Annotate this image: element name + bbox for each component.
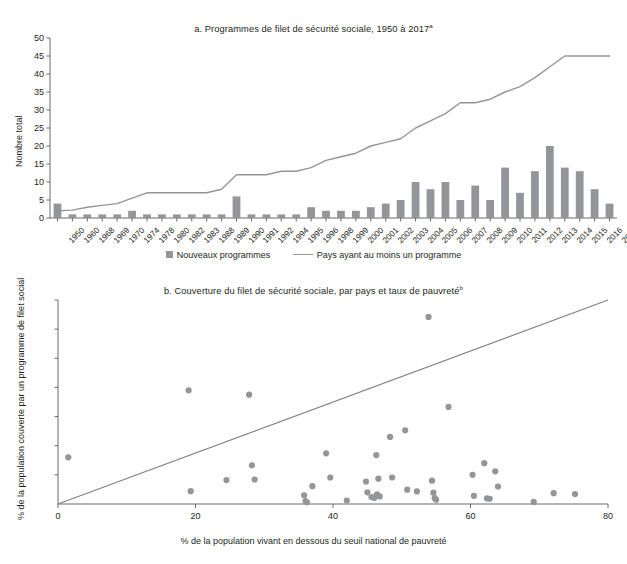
legend-line-label: Pays ayant au moins un programme <box>317 250 462 260</box>
scatter-point <box>495 483 501 489</box>
bar-1978 <box>143 214 151 218</box>
panel-a-ytick-15: 15 <box>22 160 44 169</box>
figure-container: a. Programmes de filet de sécurité socia… <box>0 0 627 564</box>
panel-b-scatter-chart: b. Couverture du filet de sécurité socia… <box>0 272 627 564</box>
panel-a-ytick-40: 40 <box>22 70 44 79</box>
scatter-point <box>301 492 307 498</box>
panel-b-xtick-80: 80 <box>593 512 623 521</box>
bar-1960 <box>69 214 77 218</box>
bar-1982 <box>173 214 181 218</box>
bar-2014 <box>561 168 569 218</box>
bar-1991 <box>248 214 256 218</box>
scatter-point <box>65 454 71 460</box>
bar-1970 <box>113 214 121 218</box>
scatter-point <box>469 472 475 478</box>
bar-2009 <box>486 200 494 218</box>
legend-line-swatch-icon <box>293 254 313 255</box>
panel-b-xtick-60: 60 <box>456 512 486 521</box>
bar-1983 <box>188 214 196 218</box>
scatter-point <box>430 490 436 496</box>
legend-item-countries-with-program: Pays ayant au moins un programme <box>293 250 462 260</box>
bar-2000 <box>352 211 360 218</box>
scatter-point <box>492 468 498 474</box>
scatter-point <box>429 478 435 484</box>
bar-1989 <box>218 214 226 218</box>
panel-a-trend-line <box>57 56 609 211</box>
scatter-point <box>572 491 578 497</box>
scatter-point <box>344 497 350 503</box>
bar-2017 <box>606 204 614 218</box>
scatter-point <box>445 404 451 410</box>
bar-1988 <box>203 214 211 218</box>
scatter-point <box>531 499 537 505</box>
scatter-point <box>414 488 420 494</box>
panel-b-xtick-20: 20 <box>181 512 211 521</box>
scatter-point <box>252 476 258 482</box>
scatter-point <box>375 476 381 482</box>
panel-a-ytick-30: 30 <box>22 106 44 115</box>
panel-a-ytick-5: 5 <box>22 196 44 205</box>
bar-2013 <box>546 146 554 218</box>
panel-a-bar-chart: a. Programmes de filet de sécurité socia… <box>0 0 627 272</box>
scatter-point <box>323 450 329 456</box>
legend-item-new-programs: Nouveaux programmes <box>166 250 271 260</box>
panel-b-xtick-0: 0 <box>43 512 73 521</box>
scatter-point <box>387 434 393 440</box>
bar-1974 <box>128 211 136 218</box>
scatter-point <box>223 477 229 483</box>
bar-1969 <box>98 214 106 218</box>
bar-2007 <box>456 200 464 218</box>
bar-1990 <box>233 196 241 218</box>
scatter-point <box>425 314 431 320</box>
scatter-point <box>373 452 379 458</box>
panel-a-ytick-10: 10 <box>22 178 44 187</box>
bar-2008 <box>471 186 479 218</box>
bar-1998 <box>322 211 330 218</box>
bar-2010 <box>501 168 509 218</box>
bar-1992 <box>262 214 270 218</box>
scatter-point <box>188 488 194 494</box>
bar-1999 <box>337 211 345 218</box>
panel-b-reference-line <box>58 300 608 504</box>
scatter-point <box>186 387 192 393</box>
scatter-point <box>487 496 493 502</box>
scatter-point <box>377 493 383 499</box>
panel-b-plot <box>0 272 627 564</box>
panel-b-xtick-40: 40 <box>318 512 348 521</box>
scatter-point <box>327 474 333 480</box>
scatter-point <box>433 497 439 503</box>
scatter-point <box>551 490 557 496</box>
scatter-point <box>402 427 408 433</box>
panel-b-points <box>65 314 578 506</box>
bar-2015 <box>576 171 584 218</box>
scatter-point <box>363 478 369 484</box>
bar-2006 <box>442 182 450 218</box>
scatter-point <box>471 493 477 499</box>
bar-1996 <box>307 207 315 218</box>
scatter-point <box>249 462 255 468</box>
panel-a-ytick-50: 50 <box>22 34 44 43</box>
bar-2001 <box>367 207 375 218</box>
bar-1995 <box>292 214 300 218</box>
panel-b-x-axis-title: % de la population vivant en dessous du … <box>0 536 627 546</box>
bar-1994 <box>277 214 285 218</box>
bar-2004 <box>412 182 420 218</box>
legend-bars-label: Nouveaux programmes <box>177 250 271 260</box>
legend-bar-swatch-icon <box>166 251 173 258</box>
panel-a-ytick-0: 0 <box>22 214 44 223</box>
scatter-point <box>389 474 395 480</box>
panel-a-ytick-35: 35 <box>22 88 44 97</box>
panel-a-ytick-45: 45 <box>22 52 44 61</box>
panel-a-bars <box>54 146 614 218</box>
bar-2003 <box>397 200 405 218</box>
panel-a-legend: Nouveaux programmes Pays ayant au moins … <box>0 250 627 260</box>
bar-1980 <box>158 214 166 218</box>
bar-2005 <box>427 189 435 218</box>
bar-2011 <box>516 193 524 218</box>
panel-a-ytick-25: 25 <box>22 124 44 133</box>
scatter-point <box>404 487 410 493</box>
bar-1968 <box>83 214 91 218</box>
scatter-point <box>481 460 487 466</box>
scatter-point <box>364 489 370 495</box>
scatter-point <box>246 392 252 398</box>
